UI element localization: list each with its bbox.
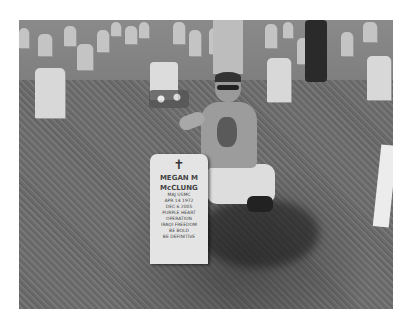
headstone: [139, 22, 149, 38]
headstone: [19, 28, 29, 48]
headstone: [341, 32, 353, 56]
cemetery-photo: ✝ MEGAN M McCLUNG MAJ USMC APR 14 1972 D…: [19, 20, 393, 309]
headstone: [111, 22, 121, 36]
standing-person-legs: [213, 20, 243, 74]
cross-icon: ✝: [150, 158, 208, 172]
sunglasses: [217, 85, 239, 90]
headstone: [64, 26, 76, 46]
headstone: [189, 30, 201, 56]
headstone: [367, 56, 391, 100]
headstone: [77, 44, 93, 70]
headstone: [265, 24, 277, 48]
headstone: [283, 22, 293, 38]
flowers: [149, 90, 189, 108]
headstone: [97, 30, 109, 52]
headstone: [125, 26, 137, 44]
headstone: [173, 22, 185, 44]
main-headstone: ✝ MEGAN M McCLUNG MAJ USMC APR 14 1972 D…: [150, 154, 208, 264]
headstone: [363, 22, 377, 42]
headstone: [35, 68, 65, 118]
headstone: [38, 34, 52, 56]
standing-person: [305, 20, 327, 82]
